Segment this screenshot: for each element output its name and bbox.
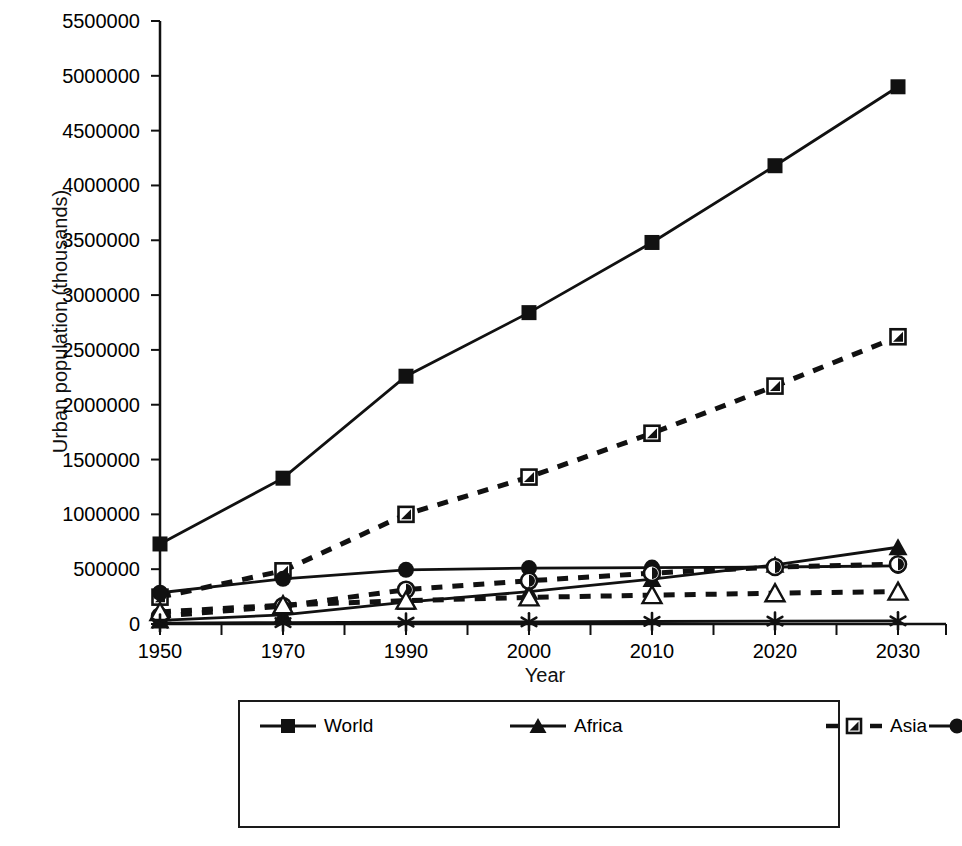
data-point-marker — [399, 369, 414, 384]
legend-item[interactable]: Asia — [824, 712, 927, 739]
x-tick-label: 1990 — [384, 640, 429, 663]
x-axis-title: Year — [130, 664, 960, 687]
legend-marker-filled-triangle-icon — [508, 715, 568, 737]
x-tick-label: 2030 — [876, 640, 921, 663]
legend-marker-open-square-icon — [824, 715, 884, 737]
y-tick-label: 2500000 — [0, 338, 140, 361]
legend-item[interactable]: World — [258, 712, 508, 739]
data-point-marker — [766, 584, 785, 601]
data-point-marker — [276, 471, 291, 486]
legend-item[interactable]: Europe — [927, 712, 962, 739]
y-tick-label: 4500000 — [0, 119, 140, 142]
x-axis-title-text: Year — [525, 664, 565, 686]
urban-population-line-chart: Urban population (thousands) Year 050000… — [0, 0, 962, 846]
legend-items: WorldAfricaAsiaEuropeLatin America and t… — [258, 712, 824, 739]
y-tick-label: 0 — [0, 613, 140, 636]
legend-item[interactable]: Africa — [508, 712, 824, 739]
legend-item-label: Africa — [574, 715, 623, 737]
legend-marker — [949, 718, 962, 733]
series-line — [160, 337, 898, 597]
data-point-marker — [889, 538, 908, 555]
legend-item-label: Asia — [890, 715, 927, 737]
y-tick-label: 3000000 — [0, 284, 140, 307]
y-tick-label: 5000000 — [0, 64, 140, 87]
data-point-marker — [398, 562, 414, 578]
data-point-marker — [891, 79, 906, 94]
legend-marker — [281, 719, 295, 733]
legend-marker-filled-circle-icon — [927, 715, 962, 737]
data-point-marker — [153, 536, 168, 551]
data-point-marker — [152, 585, 168, 601]
y-tick-label: 1500000 — [0, 448, 140, 471]
x-tick-label: 2020 — [753, 640, 798, 663]
data-point-marker — [768, 158, 783, 173]
x-tick-label: 1950 — [138, 640, 183, 663]
legend-item-label: World — [324, 715, 373, 737]
data-point-marker — [275, 571, 291, 587]
x-tick-label: 2000 — [507, 640, 552, 663]
x-tick-label: 2010 — [630, 640, 675, 663]
data-point-marker — [522, 305, 537, 320]
y-tick-label: 3500000 — [0, 229, 140, 252]
x-tick-label: 1970 — [261, 640, 306, 663]
y-tick-label: 5500000 — [0, 10, 140, 33]
legend: WorldAfricaAsiaEuropeLatin America and t… — [238, 700, 840, 828]
legend-marker-filled-square-icon — [258, 715, 318, 737]
y-tick-label: 2000000 — [0, 393, 140, 416]
data-point-marker — [889, 583, 908, 600]
y-tick-label: 500000 — [0, 558, 140, 581]
data-point-marker — [645, 235, 660, 250]
y-tick-label: 4000000 — [0, 174, 140, 197]
y-tick-label: 1000000 — [0, 503, 140, 526]
